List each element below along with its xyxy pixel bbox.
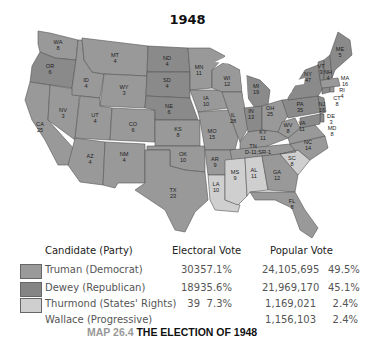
svg-text:8: 8 (176, 132, 179, 138)
popular-percent: 45.1% (328, 282, 358, 293)
svg-text:4: 4 (340, 93, 343, 99)
popular-votes: 1,169,021 (262, 298, 316, 309)
state-nm (103, 142, 145, 188)
popular-votes: 21,969,170 (262, 282, 316, 293)
svg-text:25: 25 (267, 111, 273, 117)
legend-row-truman: Truman (Democrat) 303 57.1% 24,105,695 4… (0, 264, 375, 280)
caption-text: THE ELECTION OF 1948 (136, 326, 257, 338)
electoral-percent: 35.6% (200, 282, 232, 293)
svg-text:8: 8 (335, 101, 338, 107)
svg-text:25: 25 (37, 127, 43, 133)
svg-text:23: 23 (170, 193, 176, 199)
svg-text:16: 16 (342, 81, 348, 87)
svg-text:16: 16 (319, 107, 325, 113)
svg-text:6: 6 (131, 127, 134, 133)
swatch-dewey (20, 282, 42, 297)
svg-text:3: 3 (122, 90, 125, 96)
svg-text:11: 11 (251, 173, 257, 179)
svg-text:12: 12 (274, 175, 280, 181)
swatch-truman (20, 264, 42, 279)
legend-row-dewey: Dewey (Republican) 189 35.6% 21,969,170 … (0, 282, 375, 298)
svg-text:9: 9 (233, 175, 236, 181)
svg-text:10: 10 (213, 187, 219, 193)
svg-text:15: 15 (209, 134, 215, 140)
svg-text:8: 8 (330, 131, 333, 137)
map-number: MAP 26.4 (87, 326, 134, 338)
svg-text:19: 19 (253, 89, 259, 95)
electoral-percent: 57.1% (200, 264, 232, 275)
svg-text:11: 11 (196, 70, 202, 76)
popular-votes: 24,105,695 (262, 264, 316, 275)
svg-text:11: 11 (260, 135, 266, 141)
svg-text:8: 8 (290, 204, 293, 210)
state-de (320, 114, 324, 122)
svg-text:4: 4 (113, 58, 116, 64)
svg-text:6: 6 (48, 69, 51, 75)
candidate-name: Dewey (Republican) (45, 282, 145, 293)
popular-percent: 2.4% (328, 298, 358, 309)
svg-text:28: 28 (230, 118, 236, 124)
svg-text:14: 14 (305, 145, 311, 151)
svg-text:10: 10 (180, 157, 186, 163)
candidate-name: Truman (Democrat) (45, 264, 143, 275)
svg-text:10: 10 (203, 101, 209, 107)
electoral-votes: 39 (166, 298, 200, 309)
candidate-name: Wallace (Progressive) (45, 314, 152, 325)
svg-text:8: 8 (290, 161, 293, 167)
swatch-thurmond (20, 298, 42, 313)
states (25, 31, 352, 238)
svg-text:12: 12 (224, 81, 230, 87)
svg-text:3: 3 (61, 113, 64, 119)
candidate-name: Thurmond (States' Rights) (45, 298, 176, 309)
svg-text:35: 35 (297, 107, 303, 113)
svg-text:5: 5 (338, 52, 341, 58)
header-electoral-vote: Electoral Vote (172, 245, 241, 256)
header-popular-vote: Popular Vote (270, 245, 333, 256)
map-caption: MAP 26.4 THE ELECTION OF 1948 (87, 326, 257, 338)
svg-text:11: 11 (299, 126, 305, 132)
svg-text:4: 4 (326, 75, 329, 81)
svg-text:9: 9 (213, 162, 216, 168)
svg-text:4: 4 (165, 61, 168, 67)
header-candidate: Candidate (Party) (45, 245, 133, 256)
state-ms (225, 158, 247, 205)
popular-percent: 2.4% (328, 314, 358, 325)
svg-text:4: 4 (122, 157, 125, 163)
popular-votes: 1,156,103 (262, 314, 316, 325)
state-az (68, 138, 105, 185)
svg-text:47: 47 (305, 77, 311, 83)
state-fl (250, 192, 318, 238)
electoral-percent: 7.3% (200, 298, 232, 309)
popular-percent: 49.5% (328, 264, 358, 275)
svg-text:D-11;SR-1: D-11;SR-1 (245, 149, 271, 155)
svg-text:4: 4 (165, 83, 168, 89)
svg-text:3: 3 (319, 69, 322, 75)
us-election-map: WA8 OR6 CA25 NV3 ID4 MT4 WY3 UT4 CO6 AZ4… (0, 0, 375, 240)
svg-text:4: 4 (84, 83, 87, 89)
legend-row-thurmond: Thurmond (States' Rights) 39 7.3% 1,169,… (0, 298, 375, 314)
svg-text:4: 4 (93, 118, 96, 124)
svg-text:4: 4 (88, 159, 91, 165)
svg-text:8: 8 (286, 128, 289, 134)
svg-text:8: 8 (56, 45, 59, 51)
electoral-votes: 303 (166, 264, 200, 275)
svg-text:6: 6 (167, 109, 170, 115)
electoral-votes: 189 (166, 282, 200, 293)
svg-text:13: 13 (248, 114, 254, 120)
